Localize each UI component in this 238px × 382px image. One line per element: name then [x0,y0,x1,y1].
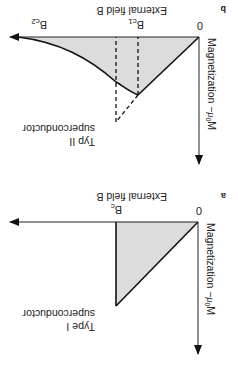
mixed-state-shade [18,37,199,95]
type-label-line2: superconductor [22,123,95,135]
y-axis-label: Magnetization −μ0M [205,38,218,130]
panel-b: Magnetization −μ0M 0 Bc1 Bc2 External fi… [10,4,226,164]
panel-label: b [220,4,226,14]
panel-label: a [220,191,226,201]
x-axis-label: External field B [96,191,167,203]
bc1-label: Bc1 [128,17,144,31]
y-axis-label: Magnetization −μ0M [204,223,217,315]
figure-stage: Magnetization −μ0M 0 Bc External field B… [0,0,238,382]
dashed-extension-line [116,95,138,122]
bc2-label: Bc2 [31,17,47,31]
superconductor-magnetization-figure: Magnetization −μ0M 0 Bc External field B… [0,0,238,382]
panel-a: Magnetization −μ0M 0 Bc External field B… [10,191,226,354]
x-axis-label: External field B [96,5,167,17]
type-label-line1: Typ II [69,136,95,148]
type-label-line1: Type I [66,321,95,333]
origin-label: 0 [196,205,202,217]
origin-label: 0 [197,20,203,32]
type-label-line2: superconductor [22,308,95,320]
bc-label: Bc [111,202,122,216]
